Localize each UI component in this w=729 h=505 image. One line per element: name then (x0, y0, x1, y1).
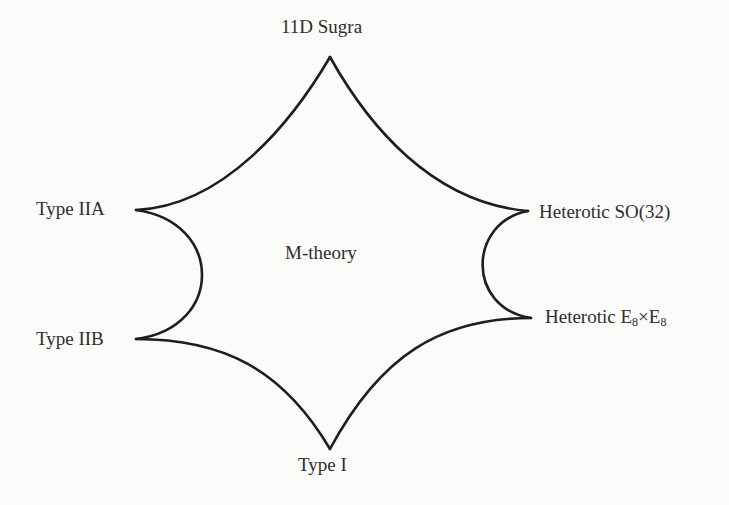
edge-11d-sugra-to-heterotic-so32 (330, 57, 528, 211)
times-e-text: ×E (638, 306, 660, 327)
node-label-heterotic-e8xe8: Heterotic E8×E8 (545, 307, 666, 326)
edge-type-iia-to-11d-sugra (136, 57, 330, 210)
duality-web-diagram (0, 0, 729, 505)
node-label-type-iib: Type IIB (36, 329, 104, 348)
center-label-m-theory: M-theory (285, 243, 357, 262)
heterotic-e-text: Heterotic E (545, 306, 632, 327)
node-label-type-i: Type I (298, 455, 347, 474)
subscript-8-second: 8 (660, 315, 666, 329)
edge-heterotic-e8-to-type-i (330, 318, 531, 449)
node-label-11d-sugra: 11D Sugra (281, 17, 362, 36)
node-label-type-iia: Type IIA (36, 199, 105, 218)
edge-type-i-to-type-iib (136, 339, 330, 449)
edge-heterotic-so32-to-heterotic-e8 (483, 211, 531, 318)
edge-type-iib-to-type-iia (136, 210, 202, 339)
node-label-heterotic-so32: Heterotic SO(32) (539, 202, 670, 221)
